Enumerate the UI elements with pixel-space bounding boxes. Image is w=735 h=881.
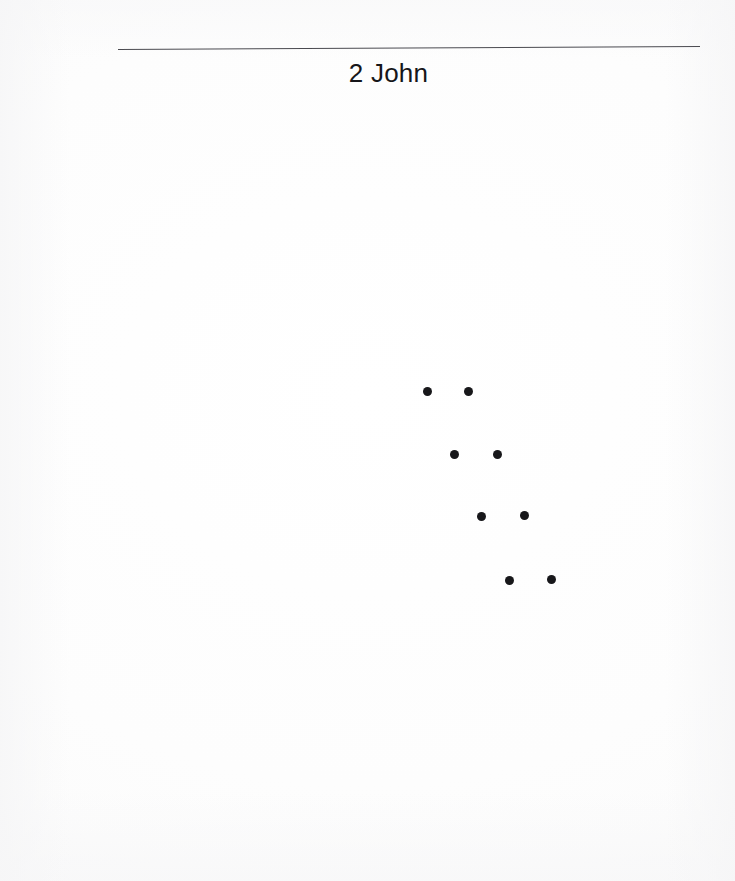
ornament-dot xyxy=(505,576,514,585)
ornament-dot xyxy=(464,387,473,396)
ornament-dot xyxy=(450,450,459,459)
ornament-dot xyxy=(520,511,529,520)
ornament-dot xyxy=(547,575,556,584)
paper-texture xyxy=(0,0,735,881)
horizontal-rule xyxy=(118,46,700,50)
ornament-dot xyxy=(423,387,432,396)
ornament-dot xyxy=(493,450,502,459)
page-title: 2 John xyxy=(0,58,735,88)
dot-ornament-cluster xyxy=(0,0,735,881)
ornament-dot xyxy=(477,512,486,521)
page-canvas: 2 John xyxy=(0,0,735,881)
